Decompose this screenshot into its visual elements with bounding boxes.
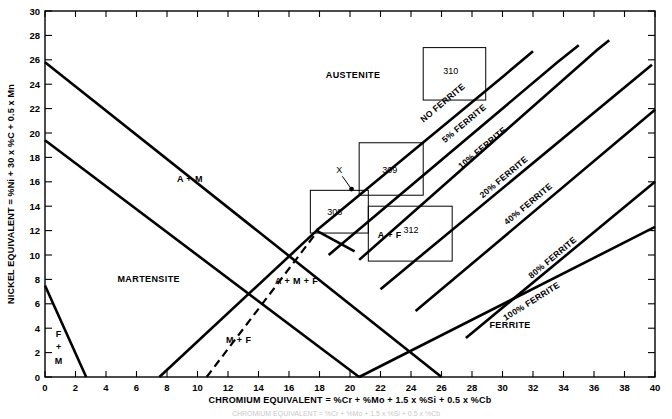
y-tick-label: 12	[29, 225, 40, 236]
x-tick-label: 18	[314, 382, 325, 393]
ferrite-line-label: 20% FERRITE	[478, 154, 530, 200]
x-tick-label: 30	[497, 382, 508, 393]
phase-line	[159, 229, 318, 377]
schaeffler-diagram-figure: 0246810121416182022242628303234363840 02…	[0, 0, 672, 419]
y-tick-label: 0	[35, 372, 40, 383]
plot-frame	[45, 11, 655, 377]
x-tick-label: 0	[42, 382, 47, 393]
x-tick-label: 24	[406, 382, 417, 393]
x-tick-label: 16	[284, 382, 295, 393]
y-tick-label: 20	[29, 128, 40, 139]
x-tick-label: 38	[619, 382, 630, 393]
x-tick-label: 34	[558, 382, 569, 393]
y-axis-ticks	[45, 11, 655, 377]
x-tick-label: 22	[375, 382, 386, 393]
marker-dot	[349, 187, 354, 192]
region-label: MARTENSITE	[117, 274, 180, 284]
region-label: A + M	[177, 174, 203, 184]
ferrite-line-label: 10% FERRITE	[456, 125, 508, 171]
x-tick-label: 36	[589, 382, 600, 393]
schaeffler-constitution-diagram: 0246810121416182022242628303234363840 02…	[0, 0, 672, 419]
region-label: M	[55, 356, 63, 366]
x-axis-ticks	[45, 11, 655, 377]
phase-line	[45, 286, 86, 378]
y-tick-label: 8	[35, 274, 40, 285]
phase-line	[207, 231, 318, 377]
x-tick-label: 2	[73, 382, 78, 393]
y-tick-label: 28	[29, 30, 40, 41]
x-tick-label: 10	[192, 382, 203, 393]
phase-boundary-lines	[45, 40, 655, 377]
x-tick-label: 12	[223, 382, 234, 393]
phase-line	[466, 182, 655, 338]
y-tick-label: 6	[35, 298, 40, 309]
x-tick-label: 14	[253, 382, 264, 393]
grade-box-label: 312	[403, 225, 418, 235]
y-tick-label: 18	[29, 152, 40, 163]
x-tick-label: 20	[345, 382, 356, 393]
region-label: +	[56, 342, 62, 352]
region-label: M + F	[226, 335, 251, 345]
phase-line	[359, 227, 655, 377]
phase-region-labels: AUSTENITEA + MMARTENSITEF+MA + M + FM + …	[55, 70, 531, 365]
x-tick-label: 28	[467, 382, 478, 393]
ferrite-line-label: NO FERRITE	[418, 81, 467, 124]
region-label: AUSTENITE	[326, 70, 381, 80]
marker-label: X	[336, 165, 342, 175]
y-tick-label: 14	[29, 201, 40, 212]
y-tick-label: 16	[29, 176, 40, 187]
grade-box-label: 308	[327, 207, 342, 217]
ferrite-line-label: 80% FERRITE	[526, 235, 578, 281]
figure-caption: CHROMIUM EQUIVALENT = %Cr + %Mo + 1.5 x …	[0, 410, 672, 419]
y-tick-label: 22	[29, 103, 40, 114]
y-tick-label: 24	[29, 79, 40, 90]
y-axis-title: NICKEL EQUIVALENT = %Ni + 30 x %C + 0.5 …	[6, 84, 16, 304]
y-tick-label: 26	[29, 54, 40, 65]
y-axis-tick-labels: 024681012141618202224262830	[29, 6, 40, 383]
composition-point-markers: X	[336, 165, 354, 191]
x-tick-label: 32	[528, 382, 539, 393]
grade-box-label: 310	[443, 66, 458, 76]
region-label: F	[56, 329, 62, 339]
ferrite-line-label: 40% FERRITE	[502, 181, 554, 227]
y-tick-label: 4	[35, 323, 41, 334]
y-tick-label: 30	[29, 6, 40, 17]
x-axis-tick-labels: 0246810121416182022242628303234363840	[42, 382, 660, 393]
y-tick-label: 2	[35, 347, 40, 358]
x-axis-title: CHROMIUM EQUIVALENT = %Cr + %Mo + 1.5 x …	[209, 395, 492, 405]
x-tick-label: 40	[650, 382, 661, 393]
ferrite-percentage-labels: NO FERRITE5% FERRITE10% FERRITE20% FERRI…	[418, 81, 578, 323]
region-label: A + F	[378, 230, 402, 240]
y-tick-label: 10	[29, 250, 40, 261]
grade-box-label: 309	[382, 165, 397, 175]
region-label: A + M + F	[275, 276, 318, 286]
x-tick-label: 26	[436, 382, 447, 393]
region-label: FERRITE	[489, 320, 530, 330]
x-tick-label: 6	[134, 382, 139, 393]
x-tick-label: 4	[103, 382, 109, 393]
x-tick-label: 8	[164, 382, 169, 393]
